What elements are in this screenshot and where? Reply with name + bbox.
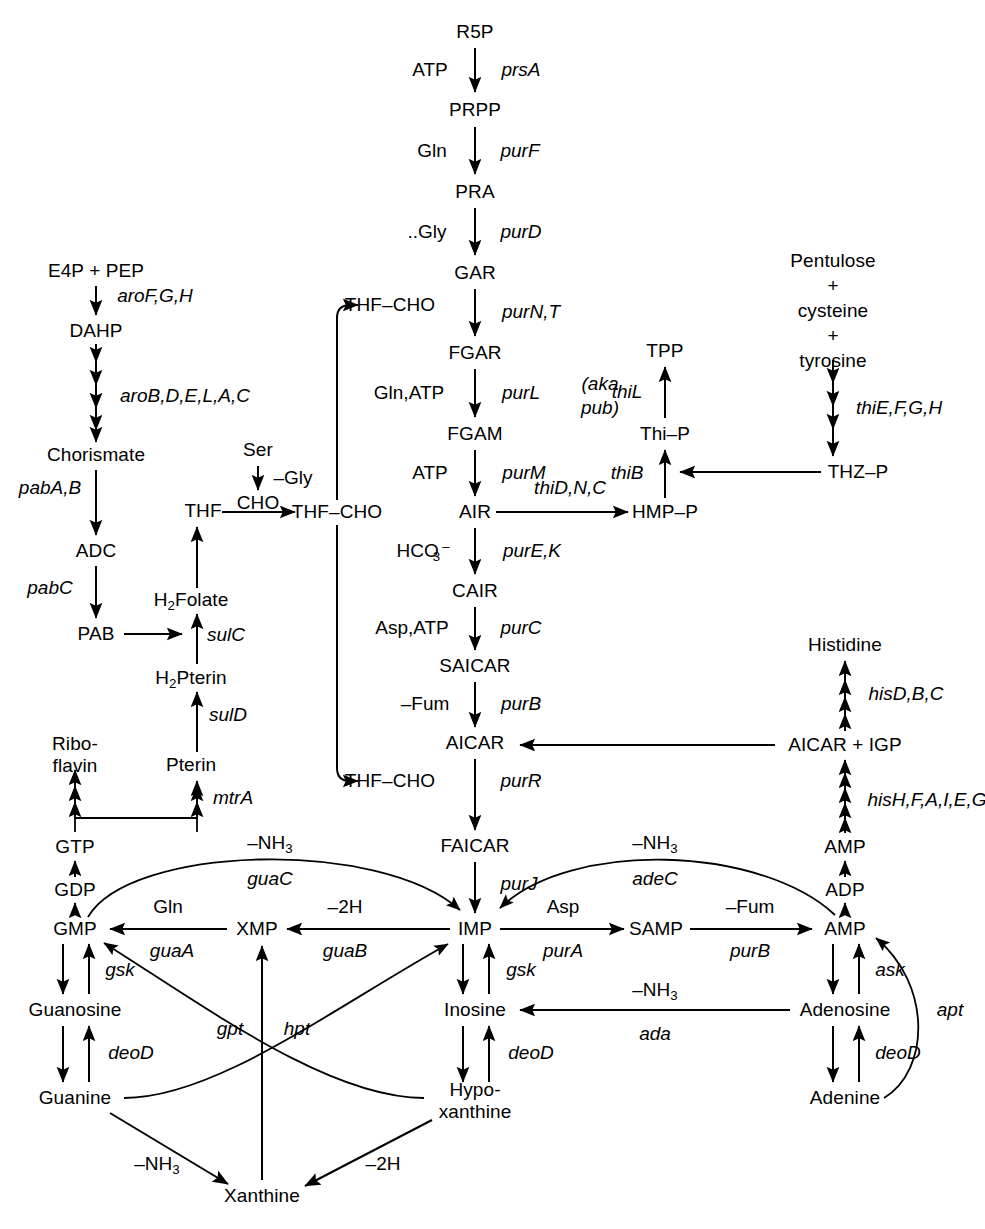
gene-gpt: gpt xyxy=(217,1018,243,1039)
gene-guac: guaC xyxy=(247,868,292,889)
gene-thib: thiB xyxy=(611,462,644,483)
node-thf-cho-mid: THF–CHO xyxy=(292,501,382,522)
node-chorismate: Chorismate xyxy=(47,444,145,465)
node-ser: Ser xyxy=(243,439,273,460)
gene-purb-bottom: purB xyxy=(730,940,770,961)
node-fgam: FGAM xyxy=(447,423,502,444)
cofactor-atp-2: ATP xyxy=(412,462,448,483)
gene-purr: purR xyxy=(500,770,541,791)
node-histidine: Histidine xyxy=(808,634,882,655)
gene-arobdelac: aroB,D,E,L,A,C xyxy=(120,385,250,406)
node-r5p: R5P xyxy=(456,21,493,42)
node-riboflavin-line2: flavin xyxy=(53,756,98,777)
node-plus-2: + xyxy=(827,326,838,347)
gene-purd: purD xyxy=(500,221,541,242)
node-pentulose: Pentulose xyxy=(790,251,875,272)
gene-hishfaieg: hisH,F,A,I,E,G xyxy=(868,789,985,810)
gene-purj: purJ xyxy=(501,873,538,894)
cofactor-gln-1: Gln xyxy=(417,140,447,161)
node-hypoxanthine-line2: xanthine xyxy=(439,1102,512,1123)
gene-deod-left: deoD xyxy=(108,1042,153,1063)
gene-deod-right: deoD xyxy=(875,1042,920,1063)
cofactor-gly: ..Gly xyxy=(407,221,446,242)
node-adenosine: Adenosine xyxy=(800,999,891,1020)
gene-hisdbc: hisD,B,C xyxy=(869,683,944,704)
cofactor-gln-guaa: Gln xyxy=(153,896,183,917)
node-gdp: GDP xyxy=(54,879,95,900)
gene-arofgh: aroF,G,H xyxy=(117,285,193,306)
gene-thiefgh: thiE,F,G,H xyxy=(856,397,942,418)
gene-suld: sulD xyxy=(209,704,247,725)
gene-pabc: pabC xyxy=(27,577,72,598)
node-imp: IMP xyxy=(458,918,492,939)
node-aicar: AICAR xyxy=(446,732,505,753)
cofactor-minus-nh3-guanine: –NH3 xyxy=(134,1153,179,1174)
node-e4p-pep: E4P + PEP xyxy=(48,260,144,281)
cofactor-minus-nh3-guac: –NH3 xyxy=(247,832,292,853)
node-air: AIR xyxy=(459,501,491,522)
node-hmp-p: HMP–P xyxy=(632,501,698,522)
node-amp-top: AMP xyxy=(824,836,865,857)
node-amp: AMP xyxy=(824,918,865,939)
node-pterin: Pterin xyxy=(166,754,216,775)
gene-purf: purF xyxy=(500,140,539,161)
edge-gpt-curve xyxy=(104,943,424,1098)
gene-adec: adeC xyxy=(632,868,677,889)
node-saicar: SAICAR xyxy=(439,655,510,676)
node-adp: ADP xyxy=(825,879,864,900)
cofactor-asp-pura: Asp xyxy=(547,896,580,917)
node-hypoxanthine-line1: Hypo- xyxy=(449,1080,500,1101)
node-tpp: TPP xyxy=(646,340,683,361)
gene-purek: purE,K xyxy=(503,540,561,561)
gene-purb-top: purB xyxy=(501,693,541,714)
node-guanosine: Guanosine xyxy=(29,999,122,1020)
cofactor-fum-top: –Fum xyxy=(401,693,450,714)
pathway-diagram-canvas: R5P PRPP PRA GAR FGAR FGAM AIR CAIR SAIC… xyxy=(0,0,985,1229)
gene-purnt: purN,T xyxy=(502,301,560,322)
node-thf-cho-top: THF–CHO xyxy=(345,294,435,315)
gene-apt: apt xyxy=(937,999,963,1020)
gene-deod-mid: deoD xyxy=(508,1042,553,1063)
node-cysteine: cysteine xyxy=(798,301,869,322)
gene-sulc: sulC xyxy=(207,624,245,645)
gene-pura: purA xyxy=(543,940,583,961)
node-cair: CAIR xyxy=(452,580,498,601)
node-riboflavin-line1: Ribo- xyxy=(52,734,98,755)
node-plus-1: + xyxy=(827,276,838,297)
gene-ada: ada xyxy=(639,1023,671,1044)
node-gmp: GMP xyxy=(53,918,97,939)
node-gtp: GTP xyxy=(55,836,94,857)
node-adc: ADC xyxy=(76,540,116,561)
edge-gtp-bracket xyxy=(75,818,197,832)
gene-ask: ask xyxy=(875,959,905,980)
node-inosine: Inosine xyxy=(444,999,506,1020)
gene-guaa: guaA xyxy=(150,940,194,961)
node-aicar-igp: AICAR + IGP xyxy=(788,734,902,755)
cofactor-minus2h-guab: –2H xyxy=(328,896,363,917)
node-fgar: FGAR xyxy=(448,342,501,363)
cofactor-minus-nh3-adec: –NH3 xyxy=(632,832,677,853)
cofactor-hco3: HCO3– xyxy=(396,540,453,561)
edge-thfchomid-top xyxy=(337,305,358,500)
node-pra: PRA xyxy=(455,181,494,202)
node-gar: GAR xyxy=(454,262,495,283)
gene-hpt: hpt xyxy=(284,1018,310,1039)
node-xmp: XMP xyxy=(236,918,277,939)
node-adenine: Adenine xyxy=(810,1087,880,1108)
cofactor-asp-atp: Asp,ATP xyxy=(375,617,449,638)
edge-thfchomid-bottom xyxy=(337,525,358,781)
node-dahp: DAHP xyxy=(69,320,122,341)
node-pab: PAB xyxy=(78,623,115,644)
gene-mtra: mtrA xyxy=(213,787,253,808)
node-h2folate: H2Folate xyxy=(154,589,229,610)
gene-thidnc: thiD,N,C xyxy=(534,477,606,498)
cofactor-atp-1: ATP xyxy=(412,59,448,80)
node-thz-p: THZ–P xyxy=(828,461,889,482)
cofactor-gln-atp: Gln,ATP xyxy=(374,382,444,403)
gene-gsk-left: gsk xyxy=(105,959,135,980)
node-xanthine: Xanthine xyxy=(224,1185,300,1206)
node-h2pterin: H2Pterin xyxy=(155,667,227,688)
gene-guab: guaB xyxy=(323,940,367,961)
node-tyrosine: tyrosine xyxy=(799,351,866,372)
node-faicar: FAICAR xyxy=(440,835,509,856)
